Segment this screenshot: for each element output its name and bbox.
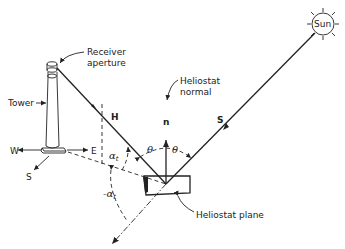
theta-left-label: θ xyxy=(147,144,153,155)
west-label: W xyxy=(10,146,19,156)
s-vector xyxy=(166,33,315,184)
n-label: n xyxy=(163,117,169,127)
alpha-label: αt xyxy=(109,150,119,163)
theta-right-arc xyxy=(166,148,191,158)
ground-projection-line xyxy=(112,184,166,244)
sun-label: Sun xyxy=(314,19,331,29)
tower-label: Tower xyxy=(7,98,34,108)
alpha-arc xyxy=(122,147,128,170)
receiver-label-line1: Receiver xyxy=(87,47,126,57)
heliostat-normal-label-line1: Heliostat xyxy=(180,76,221,86)
theta-right-label: θ xyxy=(172,144,178,155)
s-arrowhead-icon xyxy=(223,123,229,130)
south-arrow-icon xyxy=(34,156,49,170)
neg-alpha-label: -αt xyxy=(103,188,116,201)
s-label: S xyxy=(217,115,223,125)
receiver-leader xyxy=(60,52,84,63)
heliostat-plane-leader xyxy=(178,196,194,212)
east-label: E xyxy=(91,146,97,156)
south-label: S xyxy=(26,172,32,182)
heliostat-plane-label: Heliostat plane xyxy=(196,210,264,220)
heliostat-normal-label-line2: normal xyxy=(180,87,212,97)
sun-icon: Sun xyxy=(307,8,339,40)
heliostat-diagram: W E S Tower Receiver aperture H S n Heli… xyxy=(0,0,345,249)
h-label: H xyxy=(111,112,119,122)
receiver-label-line2: aperture xyxy=(87,58,126,68)
tower xyxy=(41,62,66,153)
heliostat-normal-leader xyxy=(167,80,178,100)
